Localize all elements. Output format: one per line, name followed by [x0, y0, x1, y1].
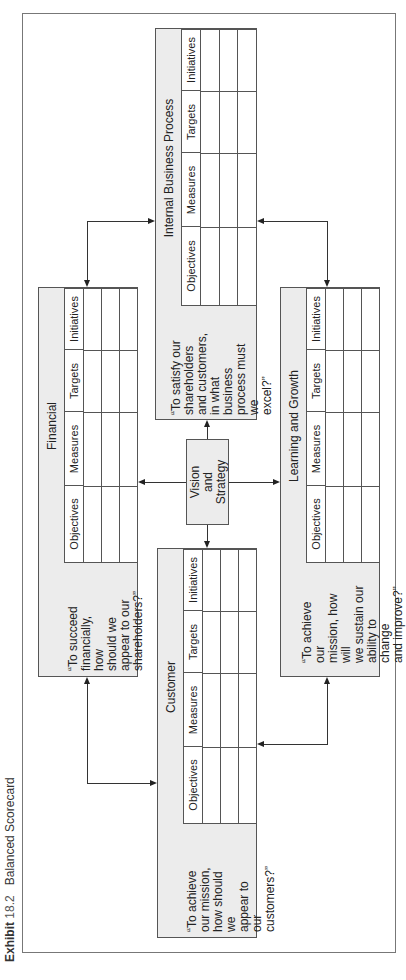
internal-box: Internal Business Process Initiatives Ta… [155, 28, 257, 420]
learning-col-objectives: Objectives [306, 485, 326, 563]
customer-col-targets: Targets [183, 610, 203, 673]
learning-col-targets: Targets [306, 349, 326, 412]
internal-col-objectives: Objectives [181, 226, 201, 306]
arrow-to-financial-from-customer [84, 677, 90, 684]
connector-learning-customer-h [264, 744, 328, 745]
exhibit-label: Exhibit [3, 922, 17, 962]
arrow-to-customer [204, 541, 210, 548]
connector-vision-internal [207, 427, 208, 439]
connector-financial-customer-v [87, 684, 88, 783]
connector-learning-customer-v [327, 684, 328, 744]
financial-col-measures: Measures [64, 411, 84, 486]
learning-col-initiatives: Initiatives [306, 288, 326, 350]
financial-table-body [83, 288, 138, 563]
internal-col-initiatives: Initiatives [181, 29, 201, 91]
internal-question: “To satisfy our shareholders and custome… [170, 329, 274, 415]
arrow-to-financial-from-internal [84, 280, 90, 287]
arrow-to-customer-from-learning [257, 741, 264, 747]
connector-vision-financial [144, 482, 186, 483]
learning-title: Learning and Growth [281, 288, 306, 563]
financial-col-initiatives: Initiatives [64, 288, 84, 350]
connector-vision-customer [207, 525, 208, 541]
connector-financial-internal-h [87, 221, 148, 222]
connector-financial-customer-h [87, 783, 150, 784]
arrow-to-learning [273, 479, 280, 485]
learning-box: Learning and Growth Initiatives Targets … [280, 287, 380, 677]
arrow-to-learning-from-internal [324, 280, 330, 287]
connector-vision-learning [229, 482, 273, 483]
customer-col-initiatives: Initiatives [183, 549, 203, 611]
exhibit-number: 18.2 [3, 895, 17, 918]
internal-col-targets: Targets [181, 90, 201, 153]
arrow-to-internal-from-financial [148, 218, 155, 224]
customer-col-objectives: Objectives [183, 746, 203, 824]
connector-financial-internal-v [87, 221, 88, 280]
internal-table-body [200, 29, 257, 306]
learning-table-body [325, 288, 380, 563]
financial-col-targets: Targets [64, 349, 84, 412]
customer-title: Customer [158, 549, 183, 824]
connector-internal-learning-h [264, 221, 327, 222]
customer-question: “To achieve our mission, how should we a… [186, 862, 277, 932]
connector-internal-learning-v [327, 221, 328, 280]
financial-question: “To succeed financially, how should we a… [67, 591, 145, 671]
arrow-to-internal-from-learning [257, 218, 264, 224]
arrow-to-learning-from-customer [324, 677, 330, 684]
learning-question: “To achieve our mission, how will we sus… [301, 585, 405, 663]
customer-table-body [202, 549, 257, 824]
financial-col-objectives: Objectives [64, 485, 84, 563]
financial-title: Financial [39, 288, 64, 563]
arrow-to-customer-from-financial [150, 780, 157, 786]
arrow-to-financial [138, 479, 145, 485]
exhibit-title: Exhibit 18.2 Balanced Scorecard [3, 777, 17, 962]
internal-title: Internal Business Process [156, 29, 181, 306]
learning-col-measures: Measures [306, 411, 326, 486]
customer-box: Customer Initiatives Targets Measures Ob… [157, 548, 257, 938]
customer-col-measures: Measures [183, 672, 203, 747]
arrow-to-internal [204, 420, 210, 427]
vision-strategy-box: Vision and Strategy [186, 439, 229, 525]
internal-col-measures: Measures [181, 152, 201, 227]
financial-box: Financial Initiatives Targets Measures O… [38, 287, 138, 677]
exhibit-caption: Balanced Scorecard [3, 777, 17, 885]
vision-strategy-label: Vision and Strategy [188, 460, 227, 505]
